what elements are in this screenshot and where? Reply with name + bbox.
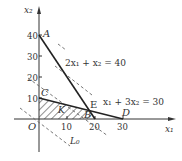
- y-axis-label: x₂: [24, 5, 33, 15]
- point-e-label: E: [90, 99, 97, 110]
- y-tick-label: 40: [27, 31, 38, 41]
- origin-label: O: [28, 121, 36, 132]
- x-tick-label: 30: [117, 122, 128, 132]
- constraint-ab-equation: 2x₁ + x₂ = 40: [65, 58, 126, 68]
- y-tick-label: 10: [27, 94, 38, 104]
- point-a-label: A: [42, 28, 50, 39]
- x-tick-label: 20: [89, 122, 100, 132]
- point-b-label: B: [83, 109, 91, 120]
- point-d-label: D: [121, 107, 130, 118]
- constraint-cd-equation: x₁ + 3x₂ = 30: [103, 97, 164, 107]
- y-tick-label: 20: [27, 73, 38, 83]
- y-axis-arrow-icon: [37, 6, 41, 14]
- x-axis-label: x₁: [165, 124, 174, 134]
- y-tick-label: 30: [27, 52, 38, 62]
- point-c-label: C: [41, 87, 49, 98]
- lp-diagram: x₂ x₁ O 10 20 30 40 10 20 30 A B C D E K…: [0, 0, 182, 161]
- x-axis-arrow-icon: [168, 117, 176, 121]
- region-k-label: K: [57, 105, 66, 115]
- x-tick-label: 10: [61, 122, 72, 132]
- l0-label: L₀: [69, 136, 80, 146]
